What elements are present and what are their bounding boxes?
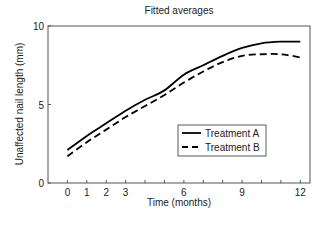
x-tick-label: 1 — [84, 187, 90, 198]
x-tick-label: 2 — [103, 187, 109, 198]
line-chart: Fitted averages 0510 01236912 Time (mont… — [0, 0, 328, 226]
y-tick-label: 5 — [38, 100, 44, 111]
y-tick-label: 10 — [33, 21, 45, 32]
plot-area: 0510 01236912 — [33, 21, 310, 198]
y-tick-label: 0 — [38, 178, 44, 189]
chart-title: Fitted averages — [145, 5, 214, 16]
x-tick-label: 12 — [295, 187, 307, 198]
x-tick-label: 9 — [239, 187, 245, 198]
legend-label-b: Treatment B — [205, 142, 260, 153]
x-tick-label: 0 — [65, 187, 71, 198]
legend-label-a: Treatment A — [205, 128, 259, 139]
y-axis-label: Unaffected nail length (mm) — [14, 43, 25, 166]
x-tick-label: 3 — [123, 187, 129, 198]
legend: Treatment A Treatment B — [178, 125, 266, 156]
x-axis-label: Time (months) — [147, 197, 211, 208]
plot-frame — [48, 26, 310, 183]
